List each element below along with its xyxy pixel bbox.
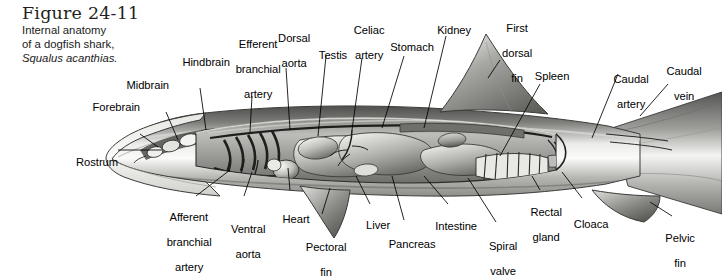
label-caudal-vein: Caudal vein <box>654 52 701 115</box>
label-afferent-branchial-artery: Afferent branchial artery <box>154 198 211 280</box>
label-caudal-artery: Caudal artery <box>601 60 648 123</box>
label-kidney: Kidney <box>425 11 471 49</box>
label-intestine: Intestine <box>423 207 477 245</box>
label-pelvic-fin: Pelvic fin <box>653 219 695 280</box>
label-pectoral-fin: Pectoral fin <box>294 228 347 280</box>
label-spleen: Spleen <box>523 57 570 95</box>
label-rostrum: Rostrum <box>64 143 118 181</box>
label-hindbrain: Hindbrain <box>170 43 230 81</box>
label-ventral-aorta: Ventral aorta <box>219 210 266 273</box>
label-cloaca: Cloaca <box>562 205 609 243</box>
label-midbrain: Midbrain <box>114 66 169 104</box>
label-dorsal-aorta: Dorsal aorta <box>266 19 310 82</box>
label-spiral-valve: Spiral valve <box>477 227 518 280</box>
label-rectal-gland: Rectal gland <box>518 193 562 256</box>
